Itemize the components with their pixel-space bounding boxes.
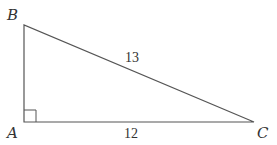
vertex-label-b: B xyxy=(6,6,18,24)
vertex-label-c: C xyxy=(257,124,269,142)
triangle-abc xyxy=(24,25,254,122)
side-label-base: 12 xyxy=(124,126,138,141)
vertex-label-a: A xyxy=(5,124,18,142)
triangle-diagram: B A C 13 12 xyxy=(0,0,277,145)
right-angle-marker xyxy=(24,110,36,122)
side-label-hypotenuse: 13 xyxy=(125,50,139,65)
